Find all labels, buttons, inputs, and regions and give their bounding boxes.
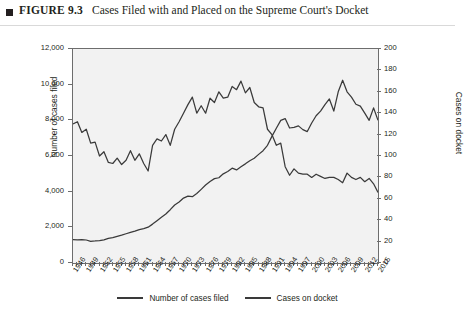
plot-region xyxy=(72,48,379,264)
y-right-tick-label: 140 xyxy=(384,107,418,116)
legend-label: Number of cases filed xyxy=(149,294,228,303)
y-right-tick-label: 200 xyxy=(384,43,418,52)
figure-number: FIGURE 9.3 xyxy=(19,4,83,16)
y-left-tick-label: 4,000 xyxy=(20,186,64,195)
y-right-tick-label: 40 xyxy=(384,214,418,223)
y-right-tick xyxy=(377,112,381,113)
legend-label: Cases on docket xyxy=(277,294,338,303)
y-right-tick-label: 60 xyxy=(384,193,418,202)
y-right-tick xyxy=(377,219,381,220)
y-right-tick xyxy=(377,91,381,92)
y-right-tick xyxy=(377,155,381,156)
figure-header: FIGURE 9.3 Cases Filed with and Placed o… xyxy=(0,0,455,26)
y-right-tick-label: 100 xyxy=(384,150,418,159)
y-right-tick-label: 120 xyxy=(384,129,418,138)
y-left-tick xyxy=(68,226,72,227)
legend-item-cases-on-docket: Cases on docket xyxy=(245,294,338,303)
figure-caption: Cases Filed with and Placed on the Supre… xyxy=(92,4,368,16)
y-left-tick xyxy=(68,84,72,85)
y-right-tick xyxy=(377,241,381,242)
y-right-tick-label: 180 xyxy=(384,64,418,73)
legend-item-cases-filed: Number of cases filed xyxy=(117,294,228,303)
y-left-tick xyxy=(68,119,72,120)
legend-swatch-line xyxy=(117,297,143,298)
y-left-tick xyxy=(68,191,72,192)
y-left-tick-label: 6,000 xyxy=(20,150,64,159)
y-right-tick xyxy=(377,176,381,177)
y-left-tick-label: 8,000 xyxy=(20,114,64,123)
y-right-tick-label: 20 xyxy=(384,236,418,245)
y-left-tick xyxy=(68,48,72,49)
line-cases-on-docket xyxy=(73,81,378,192)
y-right-tick xyxy=(377,198,381,199)
y-left-tick-label: 12,000 xyxy=(20,43,64,52)
series-lines xyxy=(73,49,378,263)
y-left-tick-label: 2,000 xyxy=(20,221,64,230)
bullet-square-icon xyxy=(6,9,13,16)
chart-legend: Number of cases filed Cases on docket xyxy=(0,288,455,308)
y-right-tick-label: 160 xyxy=(384,86,418,95)
y-right-tick xyxy=(377,69,381,70)
legend-swatch-line xyxy=(245,297,271,298)
y-axis-right-title: Cases on docket xyxy=(454,68,464,178)
y-right-tick-label: 80 xyxy=(384,171,418,180)
y-left-tick-label: 0 xyxy=(20,257,64,266)
chart-area: Number of cases filed Cases on docket 02… xyxy=(0,26,455,318)
y-left-tick xyxy=(68,155,72,156)
y-right-tick xyxy=(377,48,381,49)
y-left-tick-label: 10,000 xyxy=(20,79,64,88)
y-right-tick xyxy=(377,134,381,135)
